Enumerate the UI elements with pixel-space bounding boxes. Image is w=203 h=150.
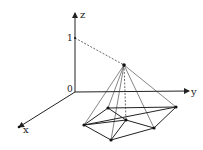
pyramid-diagram: z y x 0 1 xyxy=(0,0,203,150)
apex-altitude-line xyxy=(124,65,126,120)
base-point-f xyxy=(109,138,112,141)
y-axis-label: y xyxy=(190,86,197,97)
lateral-edges xyxy=(84,65,176,140)
x-axis-end-point xyxy=(18,126,21,129)
base-point-c xyxy=(124,118,127,121)
height-projection-line xyxy=(75,38,124,65)
base-point-b xyxy=(174,105,177,108)
z-tick-label: 1 xyxy=(67,33,73,43)
apex-point xyxy=(122,63,126,67)
base-point-d xyxy=(82,123,85,126)
z-tick-point xyxy=(74,37,76,39)
z-axis-label: z xyxy=(80,9,85,20)
y-axis xyxy=(75,91,189,92)
base-point-a xyxy=(106,106,109,109)
x-axis-label: x xyxy=(23,124,29,135)
base-hexagon xyxy=(84,107,176,140)
base-point-e xyxy=(152,126,155,129)
x-axis xyxy=(19,92,75,127)
origin-label: 0 xyxy=(67,84,73,94)
